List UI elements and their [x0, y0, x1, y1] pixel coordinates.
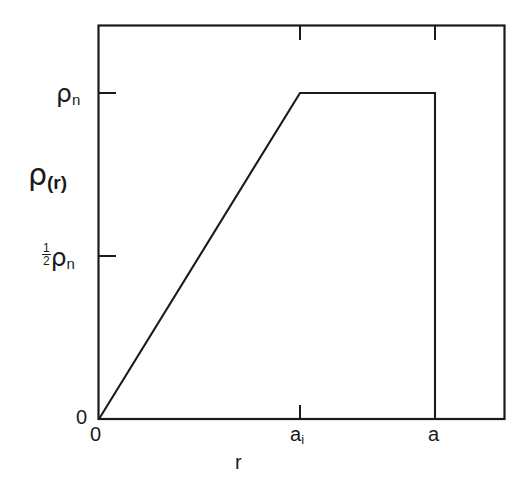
- x-tick-label-a-i: ai: [290, 424, 304, 446]
- fraction-numerator: 1: [42, 242, 51, 255]
- y-tick-label-rho-n: ρn: [56, 81, 80, 107]
- a-glyph: a: [290, 423, 301, 445]
- y-tick-label-half-rho-n: 12ρn: [42, 243, 75, 271]
- rho-glyph: ρ: [28, 157, 47, 192]
- plot-frame: [99, 26, 505, 420]
- y-axis-title-subscript: (r): [47, 172, 67, 193]
- fraction-denominator: 2: [42, 255, 51, 267]
- density-profile-figure: ρn 12ρn 0 ρ(r) 0 ai a r: [0, 0, 521, 485]
- one-half-fraction: 12: [42, 242, 51, 267]
- density-profile-curve: [99, 93, 435, 419]
- rho-n-subscript: n: [72, 91, 80, 108]
- rho-glyph: ρ: [51, 243, 67, 272]
- x-axis-title: r: [235, 452, 242, 472]
- y-axis-title: ρ(r): [28, 160, 67, 192]
- x-tick-label-a: a: [428, 424, 439, 444]
- rho-n-subscript: n: [67, 255, 75, 272]
- y-tick-label-zero: 0: [76, 407, 87, 427]
- a-i-subscript: i: [301, 432, 304, 447]
- rho-glyph: ρ: [56, 79, 72, 108]
- x-tick-label-zero: 0: [90, 424, 101, 444]
